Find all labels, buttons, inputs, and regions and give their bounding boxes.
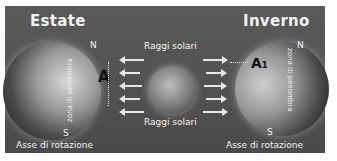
rays-bottom-label: Raggi solari xyxy=(144,117,197,127)
winter-title: Inverno xyxy=(243,12,310,30)
ray-arrow-left xyxy=(124,98,140,100)
winter-penumbra-label: zona di penombra xyxy=(286,48,294,111)
summer-north-label: N xyxy=(90,40,97,50)
summer-title: Estate xyxy=(30,12,86,30)
rays-top-label: Raggi solari xyxy=(144,41,197,51)
summer-penumbra-label: zona di penombra xyxy=(66,59,74,122)
sun-globe xyxy=(148,66,196,114)
summer-dotted-line xyxy=(108,62,109,106)
ray-arrow-right xyxy=(206,72,222,74)
ray-arrow-left xyxy=(124,59,144,61)
ray-arrow-left xyxy=(124,85,142,87)
summer-axis-label: Asse di rotazione xyxy=(16,140,93,150)
ray-arrow-left xyxy=(124,72,140,74)
ray-arrow-right xyxy=(203,59,223,61)
winter-point-a1: A₁ xyxy=(251,55,268,71)
ray-arrow-right xyxy=(203,111,223,113)
winter-earth-globe xyxy=(235,42,329,136)
ray-arrow-right xyxy=(204,85,222,87)
summer-earth-globe xyxy=(3,42,101,140)
winter-south-label: S xyxy=(267,127,273,137)
winter-north-label: N xyxy=(297,40,304,50)
ray-arrow-right xyxy=(206,98,222,100)
winter-dotted-line xyxy=(230,62,248,63)
ray-arrow-left xyxy=(124,111,144,113)
winter-axis-label: Asse di rotazione xyxy=(226,140,303,150)
summer-south-label: S xyxy=(63,128,69,138)
